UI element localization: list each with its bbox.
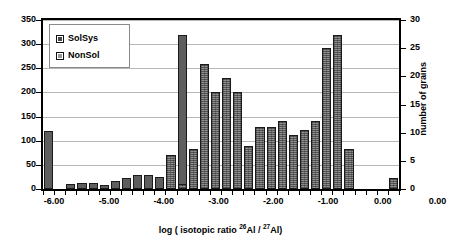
- bar-nonsol-22: [289, 135, 298, 189]
- x-axis-tick-label: -1.00: [306, 197, 350, 206]
- y-axis-left-tick: [36, 68, 41, 69]
- bar-solsys-0: [44, 131, 53, 189]
- x-axis-tick: [366, 191, 372, 195]
- y-axis-left-tick-label: 250: [0, 63, 36, 72]
- bar-nonsol-16: [222, 78, 231, 189]
- y-axis-left-tick-label: 300: [0, 39, 36, 48]
- bar-nonsol-31: [389, 178, 398, 189]
- bar-solsys-8: [133, 175, 142, 189]
- x-axis-tick: [243, 191, 249, 195]
- x-axis-tick: [254, 191, 260, 195]
- y-axis-left-tick: [36, 165, 41, 166]
- y-axis-left-tick-label: 200: [0, 87, 36, 96]
- y-axis-left-tick-label: 150: [0, 112, 36, 121]
- x-axis-tick: [76, 191, 82, 195]
- legend-label-nonsol: NonSol: [68, 51, 100, 60]
- x-axis-tick-label: 0.00: [416, 197, 451, 206]
- x-axis-tick: [277, 191, 283, 195]
- legend-swatch-solsys-icon: [56, 35, 64, 43]
- x-axis-tick: [377, 191, 383, 195]
- y-axis-right-title: number of grains: [418, 62, 428, 136]
- x-axis-tick-label: -5.00: [87, 197, 131, 206]
- x-axis-tick-label: 0.00: [361, 197, 405, 206]
- x-axis-tick: [132, 191, 138, 195]
- bar-solsys-3: [77, 183, 86, 189]
- x-axis-tick: [221, 191, 227, 195]
- bar-nonsol-25: [322, 48, 331, 189]
- bar-solsys-12: [178, 35, 187, 190]
- x-axis-tick: [299, 191, 305, 195]
- x-axis-tick: [54, 191, 60, 195]
- y-axis-left-tick: [36, 189, 41, 190]
- bar-solsys-10: [155, 177, 164, 189]
- y-axis-left-tick-label: 0: [0, 184, 36, 193]
- bar-nonsol-20: [267, 127, 276, 189]
- x-axis-tick-label: -3.00: [196, 197, 240, 206]
- bar-solsys-5: [100, 185, 109, 189]
- y-axis-right-tick-label: 25: [410, 43, 440, 52]
- bar-nonsol-23: [300, 130, 309, 189]
- legend-item-nonsol: NonSol: [56, 47, 129, 64]
- legend-swatch-nonsol-icon: [56, 52, 64, 60]
- bar-solsys-2: [66, 184, 75, 189]
- y-axis-right-tick-label: 30: [410, 15, 440, 24]
- x-axis-tick: [188, 191, 194, 195]
- x-axis-tick: [343, 191, 349, 195]
- x-axis-tick: [110, 191, 116, 195]
- bar-nonsol-19: [255, 127, 264, 189]
- legend: SolSys NonSol: [49, 24, 130, 68]
- x-axis-tick: [165, 191, 171, 195]
- y-axis-right-tick: [401, 133, 406, 134]
- y-axis-left-tick: [36, 44, 41, 45]
- x-axis-tick-label: -6.00: [32, 197, 76, 206]
- y-axis-right-tick-label: 5: [410, 156, 440, 165]
- x-axis-tick: [288, 191, 294, 195]
- bar-solsys-9: [144, 175, 153, 189]
- legend-label-solsys: SolSys: [68, 34, 98, 43]
- y-axis-right-tick-label: 0: [410, 184, 440, 193]
- x-axis-tick: [121, 191, 127, 195]
- bar-solsys-7: [122, 178, 131, 189]
- x-axis-tick: [88, 191, 94, 195]
- y-axis-right-tick: [401, 20, 406, 21]
- bar-nonsol-12: [178, 184, 187, 189]
- bar-nonsol-18: [244, 146, 253, 189]
- x-axis-tick: [310, 191, 316, 195]
- y-axis-left-tick: [36, 20, 41, 21]
- y-axis-left-tick: [36, 117, 41, 118]
- y-axis-right-tick: [401, 48, 406, 49]
- x-axis-tick: [355, 191, 361, 195]
- y-axis-left-tick-label: 100: [0, 136, 36, 145]
- x-axis-tick: [388, 191, 394, 195]
- bar-nonsol-13: [189, 149, 198, 189]
- bar-nonsol-17: [233, 92, 242, 189]
- y-axis-left-tick-label: 50: [0, 160, 36, 169]
- x-axis-tick: [99, 191, 105, 195]
- bar-nonsol-24: [311, 121, 320, 189]
- y-axis-right-tick: [401, 189, 406, 190]
- x-axis-tick-label: -2.00: [251, 197, 295, 206]
- x-axis-tick: [210, 191, 216, 195]
- x-axis-tick: [321, 191, 327, 195]
- x-axis-tick: [143, 191, 149, 195]
- x-axis-title-prefix: log ( isotopic ratio: [159, 225, 240, 235]
- x-axis-tick: [43, 191, 49, 195]
- bar-nonsol-27: [344, 149, 353, 189]
- y-axis-right-tick: [401, 76, 406, 77]
- bar-nonsol-15: [211, 92, 220, 189]
- x-axis-tick: [266, 191, 272, 195]
- x-axis-tick: [232, 191, 238, 195]
- bar-nonsol-14: [200, 64, 209, 189]
- y-axis-right-tick: [401, 105, 406, 106]
- y-axis-right-tick: [401, 161, 406, 162]
- x-axis-tick: [332, 191, 338, 195]
- x-axis-title-suffix: Al): [270, 225, 282, 235]
- y-axis-left-tick: [36, 141, 41, 142]
- x-axis-tick: [177, 191, 183, 195]
- bar-nonsol-26: [333, 35, 342, 190]
- x-axis-tick: [199, 191, 205, 195]
- x-axis-tick: [65, 191, 71, 195]
- x-axis-title: log ( isotopic ratio 26Al / 27Al): [0, 223, 441, 235]
- bar-solsys-4: [89, 183, 98, 189]
